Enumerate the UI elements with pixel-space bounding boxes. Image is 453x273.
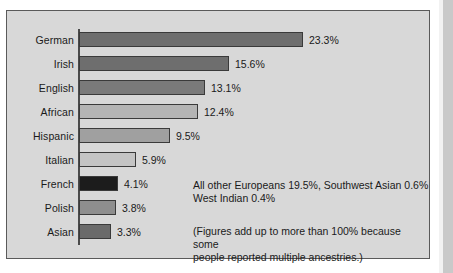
bar-value-label: 23.3%: [309, 34, 339, 46]
bar-row: Italian5.9%: [7, 150, 429, 174]
bar-english: [79, 80, 205, 95]
bar-category-label: German: [7, 34, 74, 46]
bar-category-label: Polish: [7, 202, 74, 214]
bar-row: German23.3%: [7, 30, 429, 54]
bar-polish: [79, 200, 116, 215]
bar-hispanic: [79, 128, 170, 143]
bar-category-label: Asian: [7, 226, 74, 238]
bar-irish: [79, 56, 229, 71]
bar-category-label: English: [7, 82, 74, 94]
bar-value-label: 3.3%: [117, 226, 141, 238]
chart-annotation-other-ancestries: All other Europeans 19.5%, Southwest Asi…: [193, 179, 428, 205]
bar-value-label: 5.9%: [142, 154, 166, 166]
bar-italian: [79, 152, 136, 167]
bar-german: [79, 32, 303, 47]
chart-annotation-footnote: (Figures add up to more than 100% becaus…: [193, 225, 429, 264]
page-edge-strip: [443, 0, 453, 273]
bar-value-label: 9.5%: [176, 130, 200, 142]
bar-row: Hispanic9.5%: [7, 126, 429, 150]
bar-category-label: Irish: [7, 58, 74, 70]
bar-value-label: 4.1%: [124, 178, 148, 190]
bar-chart-plot-area: German23.3%Irish15.6%English13.1%African…: [7, 11, 429, 258]
bar-asian: [79, 224, 111, 239]
bar-value-label: 12.4%: [204, 106, 234, 118]
bar-row: African12.4%: [7, 102, 429, 126]
bar-category-label: Italian: [7, 154, 74, 166]
bar-value-label: 13.1%: [211, 82, 241, 94]
bar-row: Irish15.6%: [7, 54, 429, 78]
bar-value-label: 3.8%: [122, 202, 146, 214]
bar-french: [79, 176, 118, 191]
bar-african: [79, 104, 198, 119]
bar-category-label: African: [7, 106, 74, 118]
bar-category-label: Hispanic: [7, 130, 74, 142]
bar-value-label: 15.6%: [235, 58, 265, 70]
bar-row: English13.1%: [7, 78, 429, 102]
bar-category-label: French: [7, 178, 74, 190]
chart-screenshot: German23.3%Irish15.6%English13.1%African…: [0, 0, 453, 273]
chart-panel: German23.3%Irish15.6%English13.1%African…: [6, 10, 430, 259]
